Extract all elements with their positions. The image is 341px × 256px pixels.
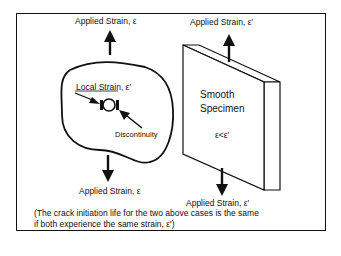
specimen-label-line2: Specimen: [200, 103, 244, 114]
left-top-strain-label: Applied Strain, ε: [75, 16, 136, 26]
notched-body-outline: [61, 62, 173, 163]
right-top-strain-label: Applied Strain, ε′: [190, 17, 253, 27]
specimen-label-line1: Smooth: [200, 89, 234, 100]
left-bottom-strain-label: Applied Strain, ε: [79, 186, 140, 196]
note-line-1: (The crack initiation life for the two a…: [34, 208, 259, 218]
discontinuity-label: Discontinuity: [115, 130, 158, 139]
right-bottom-strain-label: Applied Strain, ε′: [186, 198, 249, 208]
discontinuity-pointer-arrow: [119, 110, 142, 128]
strain-relation-label: ε<ε′: [215, 130, 229, 140]
smooth-specimen-slab: [183, 45, 280, 190]
note-line-2: if both experience the same strain, ε′): [34, 219, 175, 229]
local-strain-pointer-arrow: [75, 93, 100, 104]
discontinuity-hole: [100, 99, 119, 111]
applied-strain-up-arrow-left: [104, 30, 116, 55]
applied-strain-down-arrow-left: [102, 155, 114, 182]
local-strain-label: Local Strain, ε′: [76, 82, 131, 92]
